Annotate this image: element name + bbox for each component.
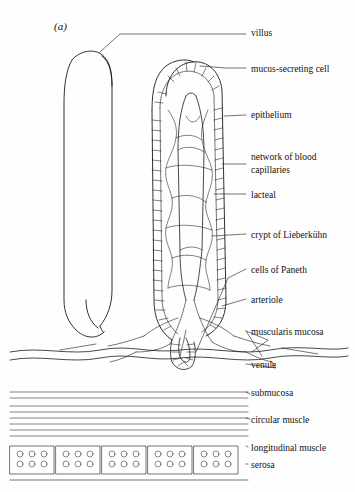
label-epithelium: epithelium [251,110,292,120]
label-villus: villus [251,28,272,38]
label-mucus-secreting-cell: mucus-secreting cell [251,64,329,74]
paneth-cells [172,344,194,366]
longitudinal-muscle-layer [10,446,238,474]
label-capillaries: capillaries [251,165,290,175]
villus-outline-left [64,51,112,330]
label-serosa: serosa [251,460,275,470]
leader-lines [100,34,276,464]
label-network-of-blood: network of blood [251,152,316,162]
label-longitudinal-muscle: longitudinal muscle [251,443,326,453]
longitudinal-muscle-nuclei [17,451,231,467]
label-venule: venule [251,360,276,370]
label-cells-of-paneth: cells of Paneth [251,265,307,275]
circular-muscle-layer [10,406,248,436]
label-arteriole: arteriole [251,295,283,305]
villus-epithelium-outer [152,60,226,340]
lacteal [178,93,204,300]
submucosa-layer [10,392,248,398]
label-crypt-of-lieberkuhn: crypt of Lieberkühn [251,230,327,240]
label-lacteal: lacteal [251,190,276,200]
label-submucosa: submucosa [251,388,293,398]
figure-panel: (a) [0,0,355,492]
label-muscularis-mucosa: muscularis mucosa [251,327,324,337]
capillary-network [166,110,213,290]
crypt-of-lieberkuhn [171,338,196,369]
label-circular-muscle: circular muscle [251,415,309,425]
villus-base-left [76,300,104,337]
